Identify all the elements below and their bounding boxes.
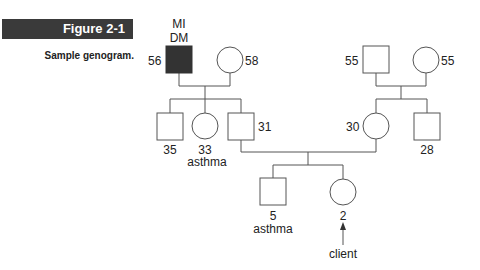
age-label: 56 — [148, 54, 162, 68]
genogram-diagram: MI DM 56 58 55 55 35 33 asthma 31 30 28 … — [0, 0, 480, 270]
male-symbol — [228, 113, 254, 140]
condition-label: asthma — [253, 222, 293, 236]
age-label: 31 — [258, 120, 272, 134]
male-symbol — [157, 113, 183, 140]
age-label: 28 — [420, 143, 434, 157]
age-label: 2 — [340, 209, 347, 223]
age-label: 55 — [345, 54, 359, 68]
client-arrow-icon — [340, 222, 346, 230]
male-symbol — [414, 113, 440, 140]
age-label: 55 — [441, 54, 455, 68]
condition-label: asthma — [187, 155, 227, 169]
age-label: 5 — [270, 209, 277, 223]
female-symbol — [217, 47, 243, 73]
client-label: client — [329, 247, 358, 261]
female-symbol — [363, 113, 389, 139]
female-symbol — [330, 179, 356, 205]
female-symbol — [413, 47, 439, 73]
age-label: 35 — [163, 143, 177, 157]
female-symbol — [192, 113, 218, 139]
condition-label: MI — [172, 17, 185, 31]
condition-label: DM — [170, 31, 189, 45]
age-label: 58 — [245, 54, 259, 68]
male-symbol — [260, 178, 286, 205]
male-affected-symbol — [166, 46, 192, 73]
male-symbol — [363, 46, 389, 73]
age-label: 30 — [346, 120, 360, 134]
